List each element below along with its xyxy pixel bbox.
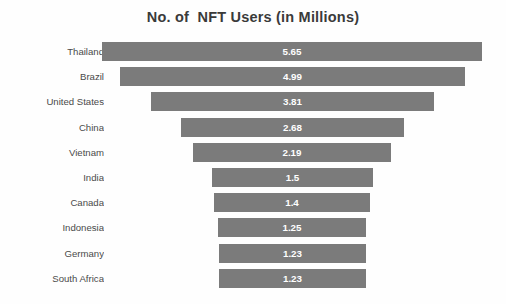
bar-value-label: 1.25 [218,218,366,237]
funnel-bar: 1.5 [212,168,373,187]
funnel-row: India1.5 [0,168,506,187]
bar-value-label: 1.23 [219,244,366,263]
bar-value-label: 1.5 [212,168,373,187]
funnel-row: China2.68 [0,118,506,137]
funnel-bar: 3.81 [151,92,434,111]
category-label: Indonesia [0,218,104,237]
category-label: India [0,168,104,187]
chart-title: No. of NFT Users (in Millions) [0,9,506,25]
bar-value-label: 5.65 [102,42,482,61]
funnel-row: Vietnam2.19 [0,143,506,162]
funnel-row: South Africa1.23 [0,269,506,288]
bar-value-label: 1.23 [219,269,366,288]
funnel-row: Brazil4.99 [0,67,506,86]
funnel-bar: 1.4 [214,193,370,212]
funnel-chart: No. of NFT Users (in Millions) Thailand5… [0,0,506,304]
funnel-bar: 2.68 [181,118,404,137]
plot-area: Thailand5.65Brazil4.99United States3.81C… [0,40,506,294]
category-label: Germany [0,244,104,263]
bar-value-label: 1.4 [214,193,370,212]
bar-value-label: 3.81 [151,92,434,111]
funnel-bar: 1.23 [219,244,366,263]
category-label: United States [0,92,104,111]
funnel-bar: 4.99 [120,67,465,86]
funnel-bar: 1.25 [218,218,366,237]
category-label: Canada [0,193,104,212]
category-label: Vietnam [0,143,104,162]
funnel-bar: 5.65 [102,42,482,61]
bar-value-label: 2.19 [193,143,391,162]
bar-value-label: 2.68 [181,118,404,137]
funnel-row: United States3.81 [0,92,506,111]
category-label: Thailand [0,42,104,61]
bar-value-label: 4.99 [120,67,465,86]
category-label: Brazil [0,67,104,86]
funnel-bar: 1.23 [219,269,366,288]
funnel-row: Indonesia1.25 [0,218,506,237]
funnel-row: Thailand5.65 [0,42,506,61]
category-label: South Africa [0,269,104,288]
funnel-row: Germany1.23 [0,244,506,263]
category-label: China [0,118,104,137]
funnel-bar: 2.19 [193,143,391,162]
funnel-row: Canada1.4 [0,193,506,212]
